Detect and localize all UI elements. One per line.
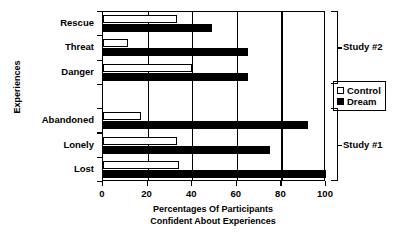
x-axis-tick-label-100: 100: [310, 188, 340, 199]
annotation-label-study-2: Study #2: [343, 41, 383, 52]
x-axis-tick-label-60: 60: [221, 188, 251, 199]
y-axis-label-danger: Danger: [61, 67, 94, 77]
legend: Control Dream: [333, 81, 386, 111]
bar-danger-dream: [103, 73, 248, 81]
y-axis-label-lost: Lost: [74, 164, 94, 174]
bar-danger-control: [103, 64, 192, 72]
legend-item-dream: Dream: [337, 96, 381, 107]
y-axis-tick: [97, 132, 102, 133]
x-axis-tick-label-40: 40: [176, 188, 206, 199]
bar-lonely-control: [103, 137, 177, 145]
bar-abandoned-control: [103, 112, 141, 120]
y-axis-label-rescue: Rescue: [60, 18, 94, 28]
x-axis-tick-label-20: 20: [132, 188, 162, 199]
x-axis-tick: [325, 181, 326, 186]
gridline: [148, 12, 149, 180]
annotation-label-study-1: Study #1: [343, 139, 383, 150]
x-axis-tick-label-0: 0: [87, 188, 117, 199]
bar-rescue-dream: [103, 24, 212, 32]
legend-label-control: Control: [347, 85, 381, 96]
legend-label-dream: Dream: [347, 96, 377, 107]
bar-threat-control: [103, 39, 128, 47]
bracket-study-1: [331, 108, 338, 181]
x-axis-tick: [236, 181, 237, 186]
bar-lost-dream: [103, 170, 326, 178]
bar-threat-dream: [103, 48, 248, 56]
x-axis-tick-label-80: 80: [265, 188, 295, 199]
y-axis-tick: [97, 84, 102, 85]
bar-lonely-dream: [103, 146, 270, 154]
y-axis-tick: [97, 157, 102, 158]
gridline: [281, 12, 282, 180]
y-axis-tick: [97, 35, 102, 36]
gridline: [192, 12, 193, 180]
plot-area: [102, 11, 325, 181]
x-axis-title-line-1: Percentages Of Participants: [82, 203, 344, 215]
x-axis-tick: [280, 181, 281, 186]
y-axis-label-abandoned: Abandoned: [42, 115, 94, 125]
bar-abandoned-dream: [103, 121, 308, 129]
bracket-study-2: [331, 11, 338, 84]
y-axis-tick: [97, 108, 102, 109]
bar-chart: Experiences RescueThreatDangerAbandonedL…: [0, 0, 403, 241]
x-axis-tick: [102, 181, 103, 186]
y-axis-label-threat: Threat: [65, 42, 94, 52]
x-axis-title: Percentages Of Participants Confident Ab…: [82, 203, 344, 227]
bar-lost-control: [103, 161, 179, 169]
y-axis-category-labels: RescueThreatDangerAbandonedLonelyLost: [16, 11, 98, 181]
bracket-tick: [338, 47, 342, 48]
x-axis-tick: [191, 181, 192, 186]
filled-square-icon: [337, 98, 344, 105]
x-axis-title-line-2: Confident About Experiences: [82, 215, 344, 227]
gridline: [237, 12, 238, 180]
y-axis-tick: [97, 60, 102, 61]
x-axis-tick: [147, 181, 148, 186]
y-axis-label-lonely: Lonely: [63, 140, 94, 150]
bar-rescue-control: [103, 15, 177, 23]
bracket-tick: [338, 145, 342, 146]
legend-item-control: Control: [337, 85, 381, 96]
open-square-icon: [337, 87, 344, 94]
y-axis-tick: [97, 11, 102, 12]
